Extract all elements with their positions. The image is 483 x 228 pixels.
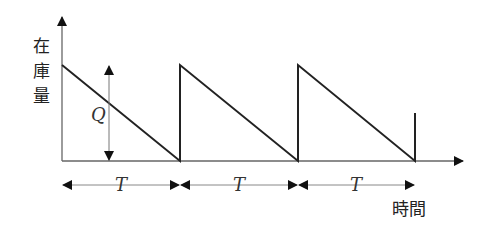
inventory-level-line xyxy=(62,65,415,161)
period-2-label: T xyxy=(233,174,247,195)
x-axis-label: 時間 xyxy=(392,199,426,219)
y-axis-label: 在 庫 量 xyxy=(33,36,50,106)
inventory-sawtooth-diagram: Q 在 庫 量 T T T 時間 xyxy=(0,0,483,228)
period-2: T xyxy=(181,174,297,195)
period-1-label: T xyxy=(115,174,129,195)
q-label: Q xyxy=(91,104,106,125)
y-label-char-3: 量 xyxy=(33,86,50,106)
period-1: T xyxy=(63,174,179,195)
y-label-char-1: 在 xyxy=(33,36,50,56)
period-3: T xyxy=(299,174,414,195)
period-3-label: T xyxy=(350,174,364,195)
y-label-char-2: 庫 xyxy=(33,61,50,81)
